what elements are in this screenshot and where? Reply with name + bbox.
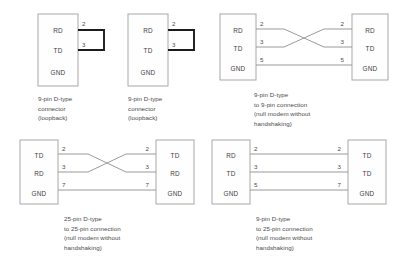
right-signal-gnd: GND: [168, 190, 183, 197]
signal-label-gnd: GND: [141, 69, 156, 76]
signal-label-td: TD: [54, 47, 63, 54]
right-pin-3: 3: [341, 38, 345, 45]
pin-number-2: 2: [82, 20, 86, 27]
pin-number-2: 2: [172, 20, 176, 27]
null-modem-25to25-svg: TD RD GND TD RD GND 2 3 7 2 3 7: [16, 138, 196, 210]
left-pin-7: 7: [62, 181, 66, 188]
left-signal-td: TD: [35, 152, 44, 159]
caption-null-modem-25to25: 25-pin D-type to 25-pin connection (null…: [64, 214, 194, 252]
right-signal-gnd: GND: [360, 190, 375, 197]
signal-label-td: TD: [144, 47, 153, 54]
pin-number-3: 3: [82, 41, 86, 48]
right-pin-5: 5: [341, 56, 345, 63]
caption-loopback-left: 9-pin D-type connector (loopback): [38, 94, 130, 123]
left-pin-2: 2: [62, 145, 66, 152]
loopback-left-svg: RD TD GND 2 3: [30, 8, 130, 98]
right-signal-td: TD: [366, 45, 375, 52]
left-pin-3: 3: [254, 163, 258, 170]
left-signal-td: TD: [227, 170, 236, 177]
left-pin-2: 2: [260, 20, 264, 27]
caption-loopback-right: 9-pin D-type connector (loopback): [128, 94, 220, 123]
signal-label-gnd: GND: [51, 69, 66, 76]
left-pin-3: 3: [62, 163, 66, 170]
right-pin-3: 3: [338, 163, 342, 170]
left-pin-3: 3: [260, 38, 264, 45]
null-modem-9to25-svg: RD TD GND TD TD GND 2 3 5 2 3 7: [208, 138, 388, 210]
left-signal-rd: RD: [226, 152, 236, 159]
left-signal-gnd: GND: [32, 190, 47, 197]
right-pin-2: 2: [341, 20, 345, 27]
caption-null-modem-9to25: 9-pin D-type to 25-pin connection (null …: [256, 214, 386, 252]
left-pin-2: 2: [254, 145, 258, 152]
right-pin-2: 2: [338, 145, 342, 152]
right-pin-7: 7: [146, 181, 150, 188]
pin-number-3: 3: [172, 41, 176, 48]
diagram-null-modem-9-to-25: RD TD GND TD TD GND 2 3 5 2 3 7 9-pin D-…: [208, 138, 388, 263]
right-signal-td: TD: [171, 152, 180, 159]
signal-label-rd: RD: [143, 27, 153, 34]
diagram-null-modem-25-to-25: TD RD GND TD RD GND 2 3 7 2 3 7 25-pin D…: [16, 138, 196, 263]
wire-crossover-b: [58, 154, 156, 172]
right-pin-7: 7: [338, 181, 342, 188]
right-pin-3: 3: [146, 163, 150, 170]
right-signal-rd: RD: [170, 170, 180, 177]
wire-crossover-b: [256, 29, 352, 47]
left-signal-gnd: GND: [231, 65, 246, 72]
left-signal-rd: RD: [233, 27, 243, 34]
right-signal-rd: RD: [365, 27, 375, 34]
left-pin-5: 5: [260, 56, 264, 63]
left-signal-td: TD: [234, 45, 243, 52]
diagram-null-modem-9-to-9: RD TD GND RD TD GND 2 3 5 2 3 5 9-pin D-…: [218, 8, 390, 133]
left-signal-rd: RD: [34, 170, 44, 177]
left-pin-5: 5: [254, 181, 258, 188]
right-signal-gnd: GND: [363, 65, 378, 72]
signal-label-rd: RD: [53, 27, 63, 34]
caption-null-modem-9to9: 9-pin D-type to 9-pin connection (null m…: [254, 90, 384, 128]
right-signal-td-2: TD: [363, 170, 372, 177]
diagram-loopback-9pin-right: RD TD GND 2 3 9-pin D-type connector (lo…: [120, 8, 220, 128]
left-signal-gnd: GND: [224, 190, 239, 197]
null-modem-9to9-svg: RD TD GND RD TD GND 2 3 5 2 3 5: [218, 8, 390, 88]
right-signal-td-1: TD: [363, 152, 372, 159]
right-pin-2: 2: [146, 145, 150, 152]
diagram-loopback-9pin-left: RD TD GND 2 3 9-pin D-type connector (lo…: [30, 8, 130, 128]
loopback-right-svg: RD TD GND 2 3: [120, 8, 220, 98]
